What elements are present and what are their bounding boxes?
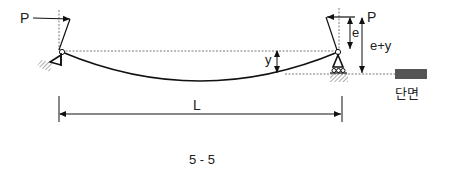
- label-y: y: [265, 52, 272, 67]
- dimension-y: y: [265, 51, 277, 73]
- label-load-left: P: [20, 10, 29, 26]
- dimension-e: e: [350, 18, 359, 49]
- reference-lines: [59, 8, 395, 74]
- dimension-length: L: [59, 96, 342, 122]
- beam-diagram: P P e e+y y 단면: [0, 0, 449, 169]
- label-e: e: [352, 25, 359, 40]
- dimension-e-plus-y: e+y: [362, 18, 392, 73]
- label-load-right: P: [367, 9, 376, 25]
- left-load: P: [20, 10, 70, 50]
- left-pin-support: [37, 49, 65, 72]
- label-e-plus-y: e+y: [370, 38, 392, 53]
- deflected-beam: [62, 52, 338, 81]
- figure-number: 5 - 5: [189, 152, 215, 167]
- cross-section: 단면: [395, 69, 427, 101]
- label-section: 단면: [395, 86, 419, 101]
- label-length: L: [193, 97, 201, 113]
